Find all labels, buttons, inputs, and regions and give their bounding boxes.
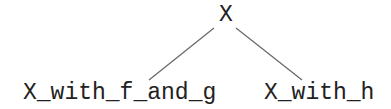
child-node-right: X_with_h [264, 82, 374, 105]
edge-root-to-left [149, 28, 214, 80]
root-node: X [219, 4, 233, 27]
child-node-left: X_with_f_and_g [23, 82, 216, 105]
tree-diagram: X X_with_f_and_g X_with_h [0, 0, 391, 109]
edge-root-to-right [236, 28, 302, 80]
